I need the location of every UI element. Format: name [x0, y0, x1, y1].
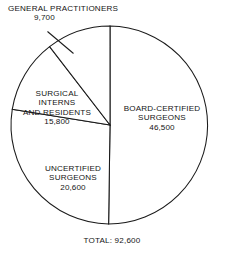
pie-label-surgical-interns-and-residents: SURGICAL INTERNS AND RESIDENTS 15,800 [8, 89, 106, 127]
pie-label-surgical-interns-name-line3: AND RESIDENTS [8, 108, 106, 117]
pie-label-board-certified-surgeons: BOARD-CERTIFIED SURGEONS 46,500 [118, 104, 206, 132]
pie-label-general-practitioners-name: GENERAL PRACTITIONERS [8, 4, 158, 13]
pie-label-uncertified-surgeons-value: 20,600 [34, 183, 112, 192]
pie-total-label: TOTAL: 92,600 [57, 236, 167, 245]
pie-label-general-practitioners-value: 9,700 [8, 13, 158, 22]
pie-label-uncertified-surgeons-name-line2: SURGEONS [34, 173, 112, 182]
pie-label-uncertified-surgeons: UNCERTIFIED SURGEONS 20,600 [34, 164, 112, 192]
pie-label-surgical-interns-name-line1: SURGICAL [8, 89, 106, 98]
pie-label-board-certified-surgeons-name-line2: SURGEONS [118, 113, 206, 122]
pie-label-board-certified-surgeons-name-line1: BOARD-CERTIFIED [118, 104, 206, 113]
pie-chart: GENERAL PRACTITIONERS 9,700 BOARD-CERTIF… [0, 0, 225, 258]
pie-label-general-practitioners: GENERAL PRACTITIONERS 9,700 [8, 4, 158, 23]
pie-label-surgical-interns-name-line2: INTERNS [8, 98, 106, 107]
pie-label-board-certified-surgeons-value: 46,500 [118, 123, 206, 132]
pie-label-surgical-interns-value: 15,800 [8, 117, 106, 126]
pie-label-uncertified-surgeons-name-line1: UNCERTIFIED [34, 164, 112, 173]
